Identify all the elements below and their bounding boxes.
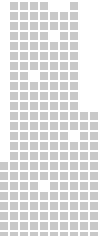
grid-cell	[60, 232, 68, 236]
grid-cell	[40, 222, 48, 230]
grid-cell	[20, 102, 28, 110]
grid-cell	[90, 152, 98, 160]
grid-cell	[70, 162, 78, 170]
grid-cell	[40, 32, 48, 40]
grid-cell	[30, 132, 38, 140]
grid-cell	[80, 222, 88, 230]
grid-cell	[10, 172, 18, 180]
grid-cell	[0, 212, 8, 220]
grid-cell	[50, 162, 58, 170]
grid-cell	[50, 102, 58, 110]
grid-cell	[30, 22, 38, 30]
grid-cell	[70, 22, 78, 30]
grid-cell	[0, 172, 8, 180]
grid-cell	[70, 172, 78, 180]
grid-cell	[60, 122, 68, 130]
grid-cell	[10, 122, 18, 130]
grid-cell	[90, 232, 98, 236]
grid-cell	[10, 12, 18, 20]
grid-cell	[20, 82, 28, 90]
grid-cell	[60, 72, 68, 80]
grid-cell	[40, 232, 48, 236]
grid-cell	[80, 162, 88, 170]
grid-cell	[90, 162, 98, 170]
grid-cell	[30, 222, 38, 230]
grid-cell	[40, 162, 48, 170]
grid-cell	[10, 132, 18, 140]
grid-cell	[70, 212, 78, 220]
grid-cell	[70, 42, 78, 50]
grid-cell	[70, 72, 78, 80]
grid-cell	[30, 192, 38, 200]
grid-cell	[70, 2, 78, 10]
grid-cell	[10, 112, 18, 120]
grid-cell	[50, 202, 58, 210]
grid-cell	[30, 182, 38, 190]
grid-cell	[10, 232, 18, 236]
grid-cell	[10, 22, 18, 30]
grid-cell	[80, 122, 88, 130]
grid-cell	[60, 92, 68, 100]
grid-cell	[70, 102, 78, 110]
grid-cell	[90, 122, 98, 130]
grid-cell	[20, 182, 28, 190]
grid-cell	[60, 32, 68, 40]
grid-cell	[40, 62, 48, 70]
grid-cell	[20, 42, 28, 50]
grid-cell	[70, 192, 78, 200]
grid-cell	[30, 212, 38, 220]
grid-cell	[50, 232, 58, 236]
grid-cell	[50, 92, 58, 100]
grid-cell	[30, 202, 38, 210]
grid-cell	[30, 112, 38, 120]
grid-cell	[20, 142, 28, 150]
grid-cell	[20, 12, 28, 20]
grid-cell	[20, 32, 28, 40]
grid-cell	[20, 2, 28, 10]
grid-cell	[50, 82, 58, 90]
grid-cell	[10, 32, 18, 40]
grid-cell	[60, 102, 68, 110]
grid-cell	[80, 192, 88, 200]
grid-cell	[50, 212, 58, 220]
grid-cell	[30, 82, 38, 90]
grid-cell	[80, 182, 88, 190]
grid-cell	[60, 112, 68, 120]
grid-cell	[90, 222, 98, 230]
grid-cell	[60, 212, 68, 220]
grid-cell	[10, 152, 18, 160]
grid-cell	[60, 42, 68, 50]
grid-cell	[60, 132, 68, 140]
grid-cell	[50, 122, 58, 130]
grid-cell	[10, 202, 18, 210]
grid-cell	[40, 192, 48, 200]
grid-cell	[10, 42, 18, 50]
grid-cell	[80, 142, 88, 150]
grid-cell	[70, 232, 78, 236]
grid-cell	[30, 102, 38, 110]
grid-cell	[50, 132, 58, 140]
grid-cell	[40, 112, 48, 120]
grid-cell	[90, 182, 98, 190]
grid-cell	[50, 172, 58, 180]
grid-cell	[50, 222, 58, 230]
grid-cell	[80, 232, 88, 236]
grid-cell	[20, 62, 28, 70]
grid-cell	[70, 122, 78, 130]
grid-cell	[40, 52, 48, 60]
grid-cell	[90, 142, 98, 150]
grid-cell	[60, 192, 68, 200]
grid-cell	[50, 112, 58, 120]
grid-cell	[10, 82, 18, 90]
grid-cell	[60, 82, 68, 90]
grid-cell	[50, 192, 58, 200]
grid-cell	[40, 92, 48, 100]
grid-cell	[10, 52, 18, 60]
grid-cell	[0, 162, 8, 170]
grid-cell	[40, 212, 48, 220]
grid-cell	[30, 62, 38, 70]
grid-cell	[70, 222, 78, 230]
grid-cell	[20, 112, 28, 120]
grid-cell	[90, 192, 98, 200]
grid-cell	[70, 182, 78, 190]
